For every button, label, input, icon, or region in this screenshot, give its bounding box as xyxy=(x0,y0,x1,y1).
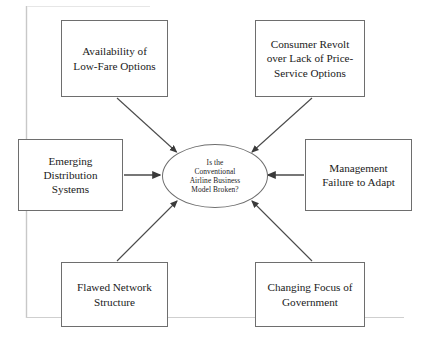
cause-box-flawed-network-label: Flawed Network Structure xyxy=(72,280,157,309)
cause-box-availability[interactable]: Availability of Low-Fare Options xyxy=(61,20,168,97)
cause-box-management-failure-label: Management Failure to Adapt xyxy=(317,161,400,190)
arrow-changing-focus-to-center xyxy=(252,201,312,261)
cause-box-availability-label: Availability of Low-Fare Options xyxy=(68,44,160,73)
cause-box-consumer-revolt-label: Consumer Revolt over Lack of Price- Serv… xyxy=(262,37,359,80)
arrow-consumer-revolt-to-center xyxy=(252,98,312,152)
cause-box-management-failure[interactable]: Management Failure to Adapt xyxy=(305,139,412,211)
cause-box-emerging-distribution-label: Emerging Distribution Systems xyxy=(38,154,102,197)
cause-box-changing-focus-label: Changing Focus of Government xyxy=(262,280,357,309)
central-question-label: Is the Conventional Airline Business Mod… xyxy=(190,158,241,194)
arrow-availability-to-center xyxy=(117,98,177,152)
cause-box-consumer-revolt[interactable]: Consumer Revolt over Lack of Price- Serv… xyxy=(255,20,365,97)
cause-box-changing-focus[interactable]: Changing Focus of Government xyxy=(255,262,365,327)
diagram-canvas: Availability of Low-Fare Options Consume… xyxy=(0,0,428,344)
cause-box-flawed-network[interactable]: Flawed Network Structure xyxy=(61,262,168,327)
central-question-ellipse[interactable]: Is the Conventional Airline Business Mod… xyxy=(162,144,268,208)
cause-box-emerging-distribution[interactable]: Emerging Distribution Systems xyxy=(18,139,123,211)
arrow-flawed-network-to-center xyxy=(117,201,177,261)
